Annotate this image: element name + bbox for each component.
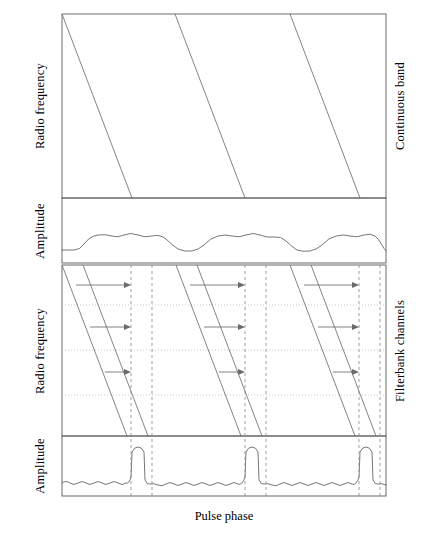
ylabel-filterbank-amplitude: Amplitude	[33, 438, 47, 494]
ylabel-filterbank-frequency: Radio frequency	[33, 307, 47, 394]
xlabel-pulse-phase: Pulse phase	[195, 509, 254, 523]
figure-root: Radio frequency Amplitude Radio frequenc…	[0, 0, 438, 534]
ylabel-continuous-frequency: Radio frequency	[33, 62, 47, 149]
pulsar-dispersion-figure: Radio frequency Amplitude Radio frequenc…	[0, 0, 438, 534]
group-label-continuous-band: Continuous band	[393, 61, 407, 150]
group-label-filterbank-channels: Filterbank channels	[393, 300, 407, 402]
ylabel-continuous-amplitude: Amplitude	[33, 203, 47, 259]
